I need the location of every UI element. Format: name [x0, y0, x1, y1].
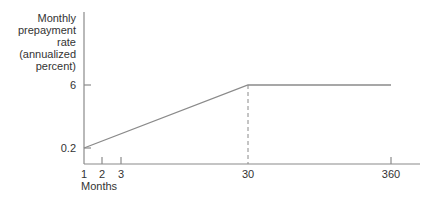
- x-axis-label: Months: [81, 180, 118, 192]
- y-axis-label-line: prepayment: [18, 24, 76, 36]
- prepayment-chart: Monthlyprepaymentrate(annualizedpercent)…: [0, 0, 443, 198]
- y-tick-label: 0.2: [61, 142, 76, 154]
- series-line: [84, 85, 391, 148]
- x-tick-label: 30: [242, 168, 254, 180]
- x-tick-label: 1: [81, 168, 87, 180]
- y-axis-label-line: percent): [36, 60, 76, 72]
- y-axis-label-line: rate: [57, 36, 76, 48]
- x-tick-label: 2: [99, 168, 105, 180]
- y-axis-label-line: Monthly: [37, 12, 76, 24]
- x-tick-label: 360: [382, 168, 400, 180]
- y-tick-label: 6: [70, 79, 76, 91]
- x-tick-label: 3: [118, 168, 124, 180]
- y-axis-label: Monthlyprepaymentrate(annualizedpercent): [18, 12, 77, 72]
- y-axis-label-line: (annualized: [19, 48, 76, 60]
